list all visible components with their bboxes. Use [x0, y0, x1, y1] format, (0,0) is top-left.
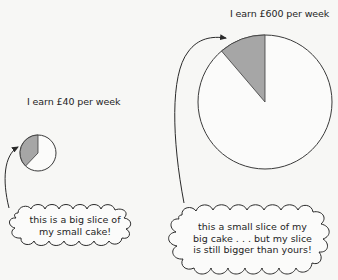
large-cloud-text: this a small slice of my big cake . . . …	[180, 221, 325, 256]
small-cloud-line-1: this is a big slice of	[20, 214, 130, 226]
large-cloud-line-2: big cake . . . but my slice	[180, 233, 325, 245]
large-cloud-line-1: this a small slice of my	[180, 221, 325, 233]
small-cloud-line-2: my small cake!	[20, 226, 130, 238]
small-pie-chart	[20, 135, 56, 171]
large-cloud-line-3: is still bigger than yours!	[180, 244, 325, 256]
large-pie-caption: I earn £600 per week	[230, 8, 329, 19]
small-pie-caption: I earn £40 per week	[27, 96, 120, 107]
small-cloud-text: this is a big slice of my small cake!	[20, 214, 130, 237]
large-pie-chart	[198, 35, 332, 169]
left-arrow	[5, 147, 18, 208]
